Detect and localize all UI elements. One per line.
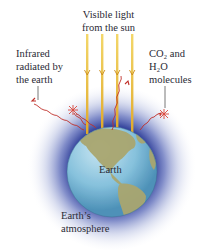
- molecules-line-3: molecules: [149, 73, 192, 86]
- infrared-line-1: Infrared: [16, 47, 63, 60]
- atmosphere-label: Earth’s atmosphere: [61, 209, 109, 235]
- earth-label: Earth: [99, 163, 122, 176]
- atmosphere-line-2: atmosphere: [61, 222, 109, 235]
- infrared-label: Infrared radiated by the earth: [16, 47, 63, 86]
- visible-light-line-2: from the sun: [10, 21, 207, 34]
- molecule-burst: [159, 109, 169, 119]
- atmosphere-line-1: Earth’s: [61, 209, 109, 222]
- molecules-label: CO₂ and H₂O molecules: [149, 47, 192, 86]
- visible-light-label: Visible light from the sun: [0, 8, 207, 34]
- infrared-line-3: the earth: [16, 73, 63, 86]
- molecules-line-2: H₂O: [149, 60, 192, 73]
- visible-light-line-1: Visible light: [10, 8, 207, 21]
- molecules-line-1: CO₂ and: [149, 47, 192, 60]
- molecule-burst: [68, 105, 78, 115]
- infrared-line-2: radiated by: [16, 60, 63, 73]
